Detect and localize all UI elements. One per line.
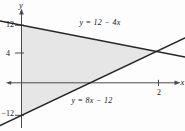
y-axis-label: y bbox=[18, 0, 23, 10]
equation-label-line1: y = 12 − 4x bbox=[78, 18, 120, 27]
x-axis-left-arrow-icon bbox=[6, 81, 11, 85]
x-axis-right-arrow-icon bbox=[175, 81, 181, 85]
graph-canvas: y x 12 4 −12 2 y = 12 − 4x y = 8x − 12 bbox=[0, 0, 185, 131]
math-graph-figure: y x 12 4 −12 2 y = 12 − 4x y = 8x − 12 bbox=[0, 0, 185, 131]
x-axis-label: x bbox=[180, 77, 185, 87]
equation-label-line2: y = 8x − 12 bbox=[70, 96, 112, 105]
tick-label-neg12: −12 bbox=[1, 109, 14, 118]
tick-label-4: 4 bbox=[6, 49, 10, 58]
tick-label-12: 12 bbox=[6, 20, 14, 29]
tick-label-2: 2 bbox=[157, 88, 161, 97]
